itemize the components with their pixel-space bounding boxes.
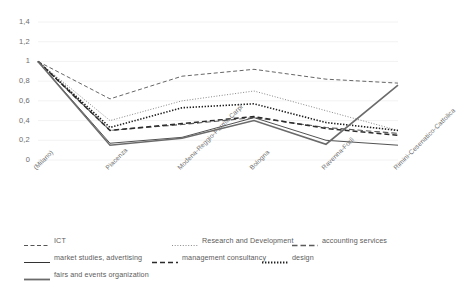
legend-label: Research and Development [202,236,294,245]
gridlines [38,22,398,160]
legend-line-swatch [24,270,50,279]
legend-item[interactable]: design [262,251,314,263]
chart-legend: ICTResearch and Developmentaccounting se… [24,232,404,288]
legend-label: accounting services [322,236,387,245]
legend-item[interactable]: accounting services [292,234,387,246]
legend-item[interactable]: market studies, advertising [24,251,142,263]
y-tick-label: 1,2 [6,37,30,46]
y-tick-label: 0,8 [6,76,30,85]
legend-label: ICT [54,236,66,245]
legend-line-swatch [24,253,50,262]
y-tick-label: 1,4 [6,17,30,26]
y-tick-label: 0,6 [6,96,30,105]
legend-line-swatch [172,236,198,245]
legend-line-swatch [262,253,288,262]
legend-line-swatch [152,253,178,262]
legend-item[interactable]: management consultancy [152,251,266,263]
legend-line-swatch [292,236,318,245]
series-line [38,61,398,98]
y-tick-label: 0,4 [6,116,30,125]
legend-line-swatch [24,236,50,245]
y-tick-label: 0 [6,155,30,164]
legend-label: fairs and events organization [54,270,149,279]
legend-label: market studies, advertising [54,253,142,262]
legend-label: design [292,253,314,262]
legend-item[interactable]: Research and Development [172,234,294,246]
legend-item[interactable]: ICT [24,234,66,246]
legend-item[interactable]: fairs and events organization [24,268,149,280]
y-tick-label: 0,2 [6,135,30,144]
legend-label: management consultancy [182,253,266,262]
y-tick-label: 1 [6,56,30,65]
